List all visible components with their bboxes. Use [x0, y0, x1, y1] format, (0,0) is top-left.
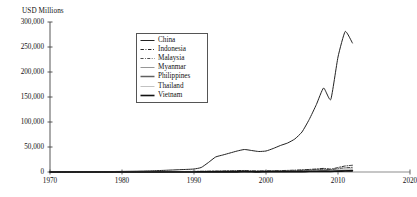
legend-swatch-malaysia-icon — [140, 54, 155, 63]
legend-item-vietnam[interactable]: Vietnam — [140, 91, 204, 100]
legend-item-china[interactable]: China — [140, 36, 204, 45]
legend-label: Malaysia — [158, 54, 184, 63]
legend-swatch-indonesia-icon — [140, 45, 155, 54]
legend-label: Thailand — [158, 82, 184, 91]
legend-label: Vietnam — [158, 91, 182, 100]
legend-label: Myanmar — [158, 63, 186, 72]
legend-label: China — [158, 36, 175, 45]
legend-swatch-vietnam-icon — [140, 91, 155, 100]
legend-item-malaysia[interactable]: Malaysia — [140, 54, 204, 63]
legend-label: Indonesia — [158, 45, 186, 54]
legend-item-thailand[interactable]: Thailand — [140, 81, 204, 90]
legend-swatch-philippines-icon — [140, 72, 155, 81]
legend-swatch-china-icon — [140, 36, 155, 45]
legend-item-indonesia[interactable]: Indonesia — [140, 45, 204, 54]
legend-item-myanmar[interactable]: Myanmar — [140, 63, 204, 72]
legend-swatch-thailand-icon — [140, 82, 155, 91]
legend-swatch-myanmar-icon — [140, 63, 155, 72]
chart-legend: ChinaIndonesiaMalaysiaMyanmarPhilippines… — [136, 33, 208, 103]
axes — [48, 22, 411, 175]
legend-label: Philippines — [158, 72, 190, 81]
legend-item-philippines[interactable]: Philippines — [140, 72, 204, 81]
